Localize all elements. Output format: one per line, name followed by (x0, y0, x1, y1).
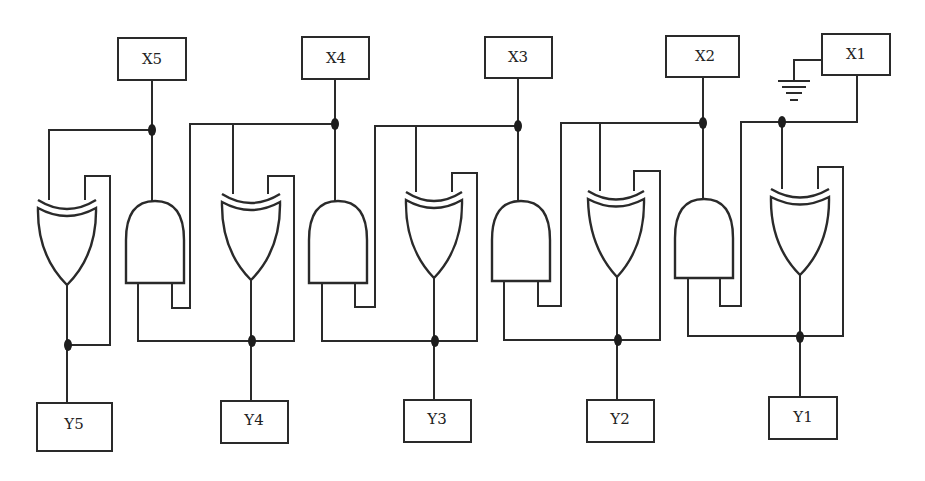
output-box-y2: Y2 (587, 400, 654, 442)
output-label-y5: Y5 (63, 415, 83, 433)
xor-gate-2 (588, 191, 644, 277)
input-box-x3: X3 (485, 37, 552, 78)
input-box-x4: X4 (302, 37, 369, 79)
stage-x1: X1 Y1 (769, 34, 890, 439)
stage-x3: X3 Y3 (404, 37, 703, 442)
output-box-y5: Y5 (37, 403, 112, 451)
stage-x4: X4 Y4 (221, 37, 518, 443)
input-label-x5: X5 (142, 50, 162, 68)
and-gate-4 (675, 199, 733, 278)
junction-dot (248, 335, 256, 347)
xor-gate-5 (38, 200, 96, 285)
input-label-x4: X4 (326, 49, 346, 67)
xor-gate-1 (771, 189, 829, 275)
junction-dot (514, 120, 522, 132)
junction-dot (614, 334, 622, 346)
circuit-diagram: X5 Y5 X4 (0, 0, 925, 481)
junction-dot (148, 124, 156, 136)
stage-x5: X5 Y5 (37, 38, 335, 451)
junction-dot (331, 118, 339, 130)
junction-dot (64, 339, 72, 351)
output-box-y3: Y3 (404, 400, 471, 442)
input-box-x5: X5 (118, 38, 186, 80)
and-gate-2 (309, 201, 367, 283)
junction-dot (778, 116, 786, 128)
output-box-y1: Y1 (769, 397, 837, 439)
ground-icon (778, 60, 822, 100)
output-label-y2: Y2 (609, 410, 629, 428)
junction-dot (699, 117, 707, 129)
xor-gate-3 (406, 192, 462, 278)
output-label-y4: Y4 (243, 411, 263, 429)
xor-gate-4 (222, 194, 280, 280)
input-label-x2: X2 (695, 47, 715, 65)
output-label-y3: Y3 (426, 410, 446, 428)
wire-x5-to-xor (49, 130, 152, 200)
output-label-y1: Y1 (792, 408, 812, 426)
and-gate-1 (126, 201, 184, 283)
junction-dot (796, 331, 804, 343)
output-box-y4: Y4 (221, 401, 288, 443)
junction-dot (431, 335, 439, 347)
and-gate-3 (492, 201, 550, 281)
input-label-x3: X3 (508, 48, 528, 66)
input-box-x2: X2 (666, 36, 739, 77)
input-label-x1: X1 (846, 45, 866, 63)
input-box-x1: X1 (822, 34, 890, 75)
